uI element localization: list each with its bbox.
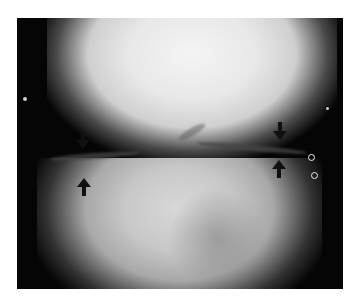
arrow-up-icon [77,178,91,196]
knee-xray-image [17,18,343,289]
arrow-down-icon [76,131,90,149]
arrow-down-icon [273,122,287,140]
marker-ring-upper [308,154,315,161]
tibia-trabecular-shadow [167,188,267,288]
marker-dot-right [326,107,329,110]
femur-condyles [47,18,337,168]
marker-ring-lower [311,172,318,179]
arrow-up-icon [272,160,286,178]
marker-dot-left [23,97,27,101]
